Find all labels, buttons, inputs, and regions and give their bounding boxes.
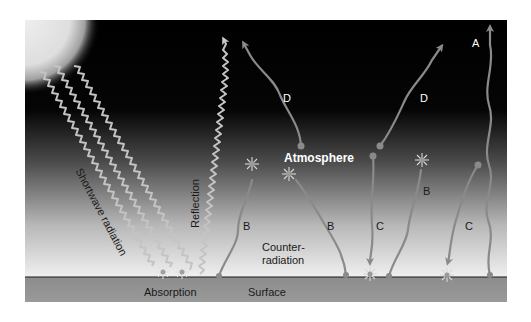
label-c-mid: C (376, 220, 384, 232)
label-counter-radiation-2: radiation (262, 254, 304, 266)
label-b-right: B (423, 185, 430, 197)
label-counter-radiation-1: Counter- (262, 241, 305, 253)
label-b-left: B (243, 220, 250, 232)
label-b-mid: B (327, 220, 334, 232)
label-d-left: D (283, 92, 291, 104)
label-surface: Surface (248, 286, 286, 298)
label-d-right: D (420, 92, 428, 104)
label-c-right: C (465, 220, 473, 232)
label-a: A (472, 37, 479, 49)
label-reflection: Reflection (189, 179, 201, 228)
label-atmosphere: Atmosphere (284, 152, 354, 164)
sky-background (25, 20, 507, 277)
radiation-balance-diagram (0, 0, 531, 322)
label-absorption: Absorption (144, 286, 197, 298)
